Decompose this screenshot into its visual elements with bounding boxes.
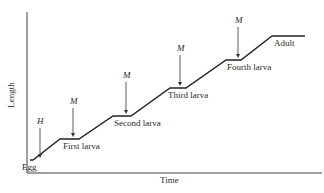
event-label: H [37,116,44,126]
x-axis-label: Time [160,175,179,185]
arrow-head-icon [178,82,182,86]
stage-label: Second larva [114,118,161,128]
stage-label: First larva [63,141,100,151]
stage-label: Adult [274,38,295,48]
event-label: M [123,70,131,80]
growth-diagram [0,0,324,193]
arrow-head-icon [124,110,128,114]
arrow-head-icon [236,54,240,58]
event-label: M [235,15,243,25]
stage-label: Third larva [168,90,208,100]
stage-label: Egg [22,162,37,172]
arrow-head-icon [71,133,75,137]
y-axis-label: Length [6,82,16,108]
stage-label: Fourth larva [227,62,271,72]
event-label: M [70,96,78,106]
event-label: M [177,43,185,53]
